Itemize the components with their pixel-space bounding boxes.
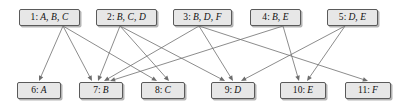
arrowhead-3-to-7 [104, 76, 110, 81]
edge-4-to-7 [114, 26, 283, 80]
node-index-11: 11: [358, 86, 370, 96]
arrowhead-4-to-10 [295, 75, 299, 81]
edge-4-to-10 [283, 26, 298, 77]
element-node-11[interactable]: 11: F [345, 82, 391, 99]
set-node-3[interactable]: 3: B, D, F [173, 9, 232, 26]
node-label-8: C [165, 86, 171, 96]
node-index-5: 5: [339, 13, 347, 23]
element-node-10[interactable]: 10: E [280, 82, 326, 99]
diagram-canvas: 1: A, B, C2: B, C, D3: B, D, F4: B, E5: … [0, 0, 404, 109]
edge-1-to-6 [41, 26, 63, 77]
arrowhead-5-to-10 [307, 75, 312, 81]
set-node-2[interactable]: 2: B, C, D [96, 9, 157, 26]
node-index-1: 1: [31, 13, 39, 23]
edge-2-to-7 [100, 26, 120, 77]
element-node-8[interactable]: 8: C [141, 82, 185, 99]
node-index-4: 4: [262, 13, 270, 23]
node-label-11: F [372, 86, 378, 96]
node-index-3: 3: [183, 13, 191, 23]
node-label-2: B, C, D [117, 13, 146, 23]
node-label-5: D, E [348, 13, 366, 23]
node-label-7: B [103, 86, 109, 96]
node-label-10: E [307, 86, 313, 96]
node-label-9: D [234, 86, 241, 96]
element-node-6[interactable]: 6: A [17, 82, 61, 99]
set-node-5[interactable]: 5: D, E [327, 9, 378, 26]
element-node-7[interactable]: 7: B [79, 82, 123, 99]
set-node-4[interactable]: 4: B, E [250, 9, 301, 26]
node-index-2: 2: [107, 13, 115, 23]
node-index-9: 9: [225, 86, 233, 96]
edge-5-to-9 [245, 26, 345, 79]
node-index-6: 6: [31, 86, 39, 96]
node-index-10: 10: [293, 86, 305, 96]
edge-5-to-10 [309, 26, 345, 78]
arrowhead-3-to-11 [362, 77, 368, 81]
arrowhead-3-to-9 [228, 75, 233, 81]
node-index-7: 7: [93, 86, 101, 96]
node-index-8: 8: [155, 86, 163, 96]
set-node-1[interactable]: 1: A, B, C [19, 9, 80, 26]
edge-2-to-9 [120, 26, 221, 79]
element-node-9[interactable]: 9: D [211, 82, 255, 99]
arrowhead-1-to-8 [151, 76, 157, 81]
node-label-3: B, D, F [193, 13, 222, 23]
node-label-6: A [41, 86, 47, 96]
edge-3-to-7 [108, 26, 199, 79]
node-label-1: A, B, C [40, 13, 68, 23]
arrowhead-4-to-7 [110, 77, 116, 81]
node-label-4: B, E [272, 13, 289, 23]
